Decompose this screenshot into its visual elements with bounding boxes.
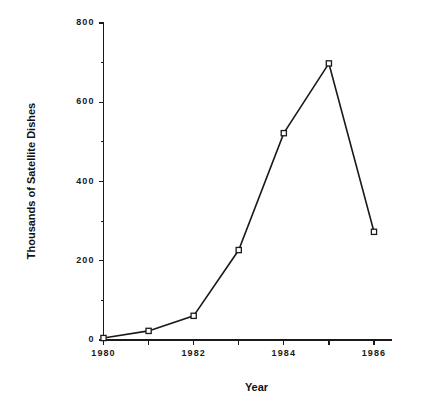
data-point-marker — [281, 131, 286, 136]
y-tick-label: 800 — [37, 17, 95, 27]
data-point-marker — [326, 61, 331, 66]
y-tick-label: 200 — [37, 255, 95, 265]
chart-series — [101, 61, 377, 341]
y-tick-label: 400 — [37, 176, 95, 186]
data-point-marker — [371, 229, 376, 234]
y-tick-label: 0 — [37, 334, 95, 344]
chart-axes — [99, 23, 393, 345]
data-point-marker — [236, 247, 241, 252]
x-tick-label: 1982 — [164, 348, 224, 358]
data-point-marker — [146, 328, 151, 333]
x-tick-label: 1986 — [344, 348, 404, 358]
data-line-satellite-dishes — [104, 63, 374, 338]
data-point-marker — [191, 313, 196, 318]
x-tick-label: 1984 — [254, 348, 314, 358]
data-point-marker — [101, 335, 106, 340]
x-axis-title: Year — [0, 381, 447, 393]
x-tick-label: 1980 — [74, 348, 134, 358]
x-axis-title-text: Year — [179, 381, 268, 393]
y-axis-title: Thousands of Satellite Dishes — [25, 81, 37, 281]
chart-figure: 02004006008001980198219841986 Thousands … — [0, 0, 447, 410]
y-tick-label: 600 — [37, 96, 95, 106]
